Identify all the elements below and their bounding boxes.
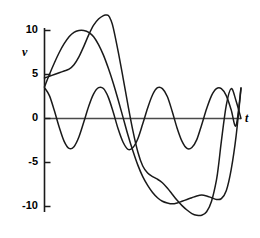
waveform-chart: 10 5 0 -5 -10 v t xyxy=(0,0,260,238)
y-tick-label-minus-10: -10 xyxy=(4,200,38,211)
series-line-broad-arch-wave xyxy=(45,30,242,204)
y-axis-ticks xyxy=(45,31,51,207)
plot-area xyxy=(0,0,260,238)
y-tick-label-5: 5 xyxy=(8,68,38,79)
y-tick-label-10: 10 xyxy=(8,24,38,35)
series-group xyxy=(45,15,242,216)
y-tick-label-minus-5: -5 xyxy=(4,156,38,167)
series-line-peaked-composite-wave xyxy=(45,15,242,216)
axes-group xyxy=(45,28,242,212)
y-tick-label-0: 0 xyxy=(8,112,38,123)
x-axis-title: t xyxy=(245,112,248,124)
y-axis-title: v xyxy=(22,46,27,58)
